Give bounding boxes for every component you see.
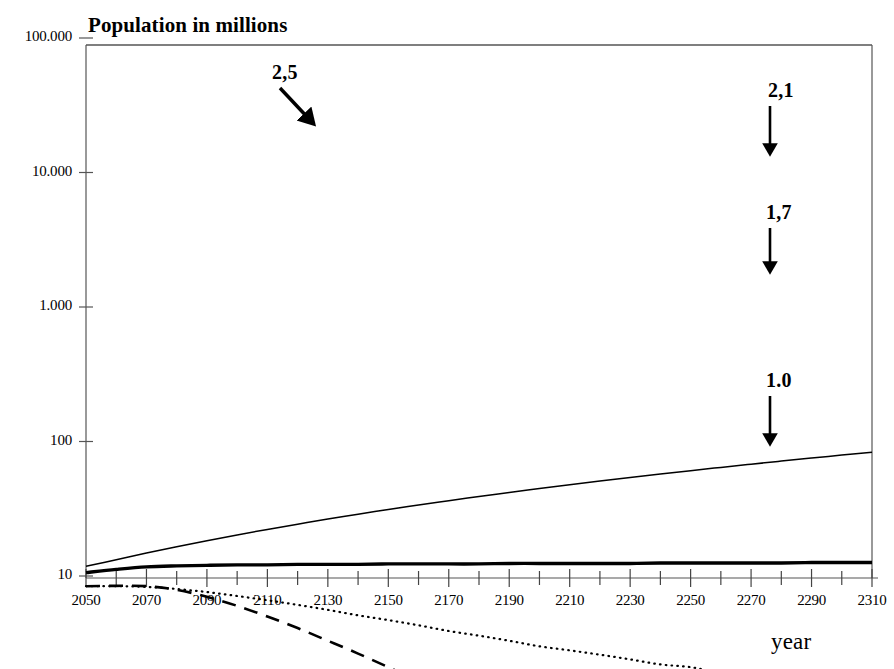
x-tick-label: 2190 <box>479 592 539 609</box>
x-tick-label: 2210 <box>540 592 600 609</box>
series-annotation-label: 1,7 <box>766 201 792 224</box>
x-tick-label: 2230 <box>600 592 660 609</box>
x-tick-label: 2170 <box>419 592 479 609</box>
y-tick-label: 1.000 <box>0 297 72 314</box>
x-tick-label: 2130 <box>298 592 358 609</box>
annotation-arrows <box>280 88 770 440</box>
chart-canvas <box>0 0 894 669</box>
chart-title: Population in millions <box>88 13 287 38</box>
x-tick-label: 2110 <box>237 592 297 609</box>
population-projection-chart: Population in millions year 100.00010.00… <box>0 0 894 669</box>
x-tick-label: 2050 <box>56 592 116 609</box>
series-annotation-label: 2,5 <box>272 61 298 84</box>
series-line-2-5 <box>86 452 872 566</box>
series-annotation-label: 1.0 <box>766 369 792 392</box>
x-tick-label: 2270 <box>721 592 781 609</box>
x-tick-label: 2310 <box>842 592 894 609</box>
axis-frame <box>86 45 878 578</box>
y-tick-label: 10 <box>0 566 72 583</box>
y-tick-label: 100.000 <box>0 28 72 45</box>
x-tick-label: 2290 <box>782 592 842 609</box>
x-tick-label: 2150 <box>358 592 418 609</box>
y-tick-label: 100 <box>0 432 72 449</box>
series-lines <box>86 452 872 669</box>
annotation-arrow-icon <box>280 88 310 120</box>
x-tick-label: 2070 <box>116 592 176 609</box>
series-annotation-label: 2,1 <box>768 79 794 102</box>
x-tick-label: 2090 <box>177 592 237 609</box>
x-tick-label: 2250 <box>661 592 721 609</box>
x-axis-label: year <box>771 629 811 655</box>
y-tick-label: 10.000 <box>0 163 72 180</box>
